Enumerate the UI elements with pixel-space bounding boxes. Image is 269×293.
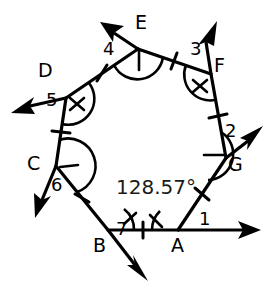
geometry-diagram: A B C D E F G 1 2 3 4 5 6 7 128.57°	[0, 0, 269, 293]
exterior-angle-label-1: 1	[199, 210, 210, 228]
vertex-label-D: D	[38, 61, 53, 80]
heptagon-figure	[0, 0, 269, 293]
vertex-label-A: A	[171, 236, 184, 255]
angle-arc-A	[150, 211, 162, 230]
tick-side-FG	[209, 114, 227, 118]
exterior-angle-label-2: 2	[225, 122, 236, 140]
tick-side-CD	[52, 131, 70, 133]
vertex-label-G: G	[228, 155, 243, 174]
exterior-angle-label-3: 3	[190, 40, 201, 58]
vertex-label-E: E	[135, 13, 147, 32]
vertex-label-B: B	[93, 236, 106, 255]
tick-side-BC	[75, 194, 89, 202]
angle-arc-C	[59, 138, 96, 192]
exterior-angle-label-5: 5	[46, 91, 57, 109]
vertex-label-C: C	[27, 154, 40, 173]
exterior-angle-label-4: 4	[103, 40, 114, 58]
vertex-label-F: F	[214, 56, 225, 75]
tick-side-GA	[195, 188, 209, 200]
interior-angle-measure: 128.57°	[116, 177, 196, 197]
exterior-ray-D	[11, 97, 66, 114]
polygon-sides	[56, 49, 226, 230]
exterior-angle-label-6: 6	[51, 176, 62, 194]
exterior-ray-A	[178, 221, 261, 239]
exterior-angle-label-7: 7	[116, 220, 127, 238]
